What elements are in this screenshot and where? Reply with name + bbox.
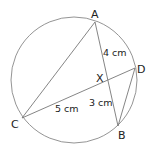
measure-ax: 4 cm <box>103 47 127 58</box>
label-d: D <box>137 63 145 76</box>
measure-cx: 5 cm <box>55 103 79 114</box>
label-a: A <box>91 8 99 21</box>
chord-diagram: A D X C B 4 cm 3 cm 5 cm <box>0 0 153 149</box>
label-x: X <box>96 72 104 85</box>
measure-xb: 3 cm <box>89 97 113 108</box>
label-b: B <box>118 129 126 142</box>
label-c: C <box>11 118 19 131</box>
chord-db <box>118 68 135 126</box>
